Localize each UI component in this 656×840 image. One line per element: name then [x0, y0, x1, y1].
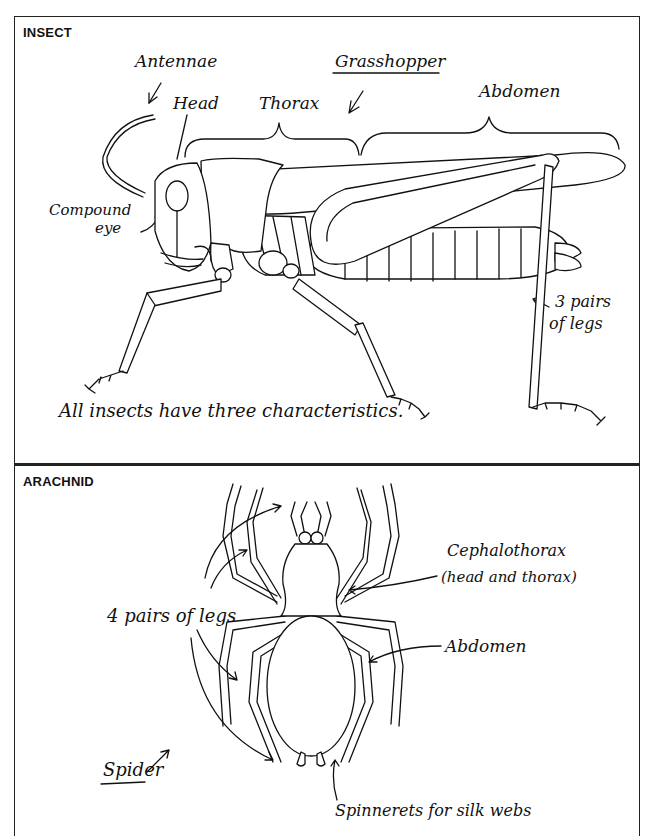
compound-eye	[166, 181, 188, 211]
cephalothorax-arrow-icon	[349, 576, 437, 594]
diagram-frame: INSECT Antennae Head Thorax Grasshopper …	[14, 16, 640, 836]
thorax-label: Thorax	[259, 93, 320, 113]
legs-label-1: 3 pairs	[555, 292, 611, 311]
cephalothorax-label-1: Cephalothorax	[447, 541, 566, 560]
spider-title: Spider	[103, 759, 165, 780]
abdomen-label: Abdomen	[443, 636, 526, 656]
arachnid-panel: ARACHNID 4 pairs of legs Cephalothorax (…	[15, 463, 639, 840]
legs-arrow-3-icon	[197, 630, 237, 680]
cephalothorax-label-2: (head and thorax)	[441, 568, 577, 586]
abdomen-brace	[361, 117, 619, 155]
antennae-label: Antennae	[133, 51, 217, 71]
spinneret-right	[317, 752, 325, 766]
spinnerets-arrow-icon	[331, 760, 339, 800]
middle-leg-femur	[293, 279, 361, 335]
spider-illustration: 4 pairs of legs Cephalothorax (head and …	[15, 466, 641, 840]
insect-caption: All insects have three characteristics.	[57, 400, 403, 421]
hind-leg-tibia	[529, 165, 553, 409]
cephalothorax	[281, 544, 341, 616]
abdomen-arrow-icon	[369, 646, 441, 662]
front-leg-femur	[147, 279, 221, 307]
front-leg-tarsus	[85, 371, 123, 393]
grasshopper-illustration: Antennae Head Thorax Grasshopper Abdomen…	[15, 17, 641, 462]
grasshopper-title: Grasshopper	[335, 51, 446, 71]
thorax-brace	[185, 123, 359, 157]
legs-arrow-1-icon	[205, 504, 281, 578]
chelicera-left	[299, 532, 311, 544]
compound-eye-label-1: Compound	[49, 201, 131, 219]
compound-eye-label-2: eye	[95, 219, 121, 237]
chelicera-right	[311, 532, 323, 544]
hind-leg-tarsus	[533, 403, 605, 425]
spinnerets-label: Spinnerets for silk webs	[335, 801, 531, 820]
spider-underline	[101, 782, 145, 784]
spinneret-left	[297, 752, 305, 766]
spider-abdomen	[267, 616, 355, 756]
head-label: Head	[172, 93, 219, 113]
pedipalp-left	[291, 502, 307, 536]
grasshopper-arrow-icon	[349, 91, 363, 113]
antennae-arrow-icon	[149, 83, 161, 103]
middle-leg-tibia	[355, 323, 395, 397]
pedipalp-right	[315, 502, 331, 536]
legs-label: 4 pairs of legs	[106, 605, 236, 626]
abdomen-label: Abdomen	[477, 81, 560, 101]
legs-label-2: of legs	[549, 314, 603, 333]
insect-panel: INSECT Antennae Head Thorax Grasshopper …	[15, 17, 639, 462]
head	[155, 163, 211, 271]
front-leg-tibia	[119, 293, 155, 373]
